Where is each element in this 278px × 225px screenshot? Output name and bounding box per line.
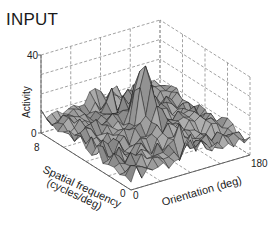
surface-plot: 40 0 8 0 0 180 Activity Spatial frequenc… (0, 0, 278, 225)
y-tick-far: 8 (34, 142, 40, 153)
surface-mesh (41, 66, 250, 182)
z-tick-bottom: 0 (31, 128, 37, 139)
x-axis-label: Orientation (deg) (160, 174, 243, 208)
z-tick-top: 40 (27, 50, 39, 61)
x-tick-far: 180 (251, 158, 268, 169)
x-tick-near: 0 (133, 190, 139, 201)
z-axis-label: Activity (21, 86, 32, 118)
